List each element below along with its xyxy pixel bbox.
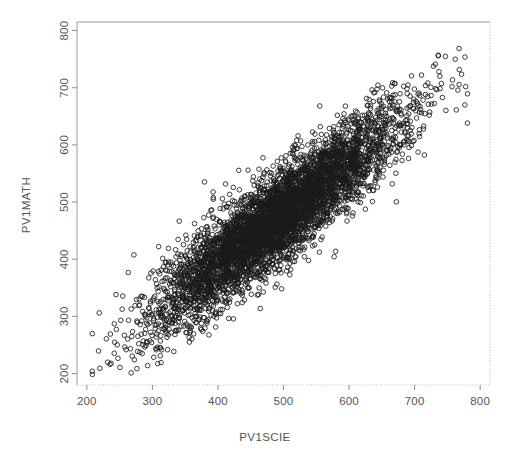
- scatter-plot-figure: 200300400500600700800 200300400500600700…: [0, 0, 505, 462]
- x-tick-label: 700: [405, 395, 425, 407]
- x-tick-label: 400: [208, 395, 228, 407]
- y-tick-label: 300: [58, 307, 70, 327]
- y-axis-title: PV1MATH: [20, 177, 32, 233]
- y-tick-label: 800: [58, 21, 70, 41]
- x-tick-label: 200: [77, 395, 97, 407]
- x-tick-label: 500: [274, 395, 294, 407]
- y-tick-label: 700: [58, 78, 70, 98]
- y-tick-label: 400: [58, 249, 70, 269]
- x-tick-label: 800: [470, 395, 490, 407]
- x-tick-label: 600: [339, 395, 359, 407]
- plot-canvas: 200300400500600700800 200300400500600700…: [0, 0, 505, 462]
- x-tick-label: 300: [142, 395, 162, 407]
- y-tick-label: 200: [58, 364, 70, 384]
- y-tick-label: 600: [58, 135, 70, 155]
- x-axis-title: PV1SCIE: [239, 431, 290, 443]
- y-tick-label: 500: [58, 192, 70, 212]
